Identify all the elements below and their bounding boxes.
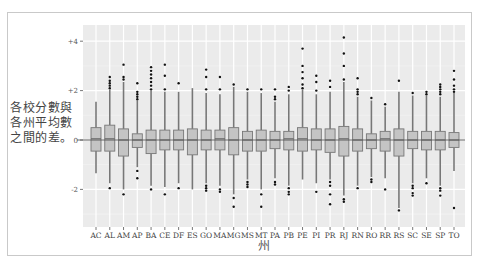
box [284, 131, 294, 150]
x-tick-label: PA [270, 231, 280, 240]
box [146, 130, 156, 153]
x-tick-label: RO [365, 231, 377, 240]
outlier-point [301, 65, 303, 67]
outlier-point [411, 194, 413, 196]
outlier-point [453, 70, 455, 72]
box [325, 129, 335, 152]
outlier-point [205, 88, 207, 90]
y-tick-label: 0 [74, 137, 78, 145]
x-tick-label: ES [187, 231, 198, 240]
outlier-point [384, 103, 386, 105]
outlier-point [453, 88, 455, 90]
outlier-point [370, 181, 372, 183]
outlier-point [150, 188, 152, 190]
outlier-point [439, 86, 441, 88]
outlier-point [246, 181, 248, 183]
x-tick-label: BA [146, 231, 158, 240]
outlier-point [260, 193, 262, 195]
box [380, 131, 390, 151]
outlier-point [150, 88, 152, 90]
outlier-point [150, 81, 152, 83]
y-tick-label: -2 [71, 186, 78, 194]
outlier-point [301, 47, 303, 49]
outlier-point [425, 182, 427, 184]
x-tick-label: CE [159, 231, 170, 240]
outlier-point [205, 68, 207, 70]
outlier-point [136, 98, 138, 100]
outlier-point [301, 87, 303, 89]
outlier-point [274, 183, 276, 185]
outlier-point [288, 191, 290, 193]
outlier-point [356, 93, 358, 95]
outlier-point [136, 96, 138, 98]
box [339, 126, 349, 156]
x-tick-label: AC [89, 231, 101, 240]
outlier-point [343, 52, 345, 54]
outlier-point [219, 191, 221, 193]
x-tick-label: PI [312, 231, 320, 240]
outlier-point [301, 71, 303, 73]
box [187, 129, 197, 155]
panel-background [83, 25, 465, 227]
outlier-point [164, 88, 166, 90]
x-tick-label: SE [421, 231, 432, 240]
outlier-point [439, 194, 441, 196]
outlier-point [315, 75, 317, 77]
outlier-point [411, 192, 413, 194]
x-tick-label: RS [394, 231, 405, 240]
outlier-point [301, 83, 303, 85]
outlier-point [122, 193, 124, 195]
outlier-point [453, 207, 455, 209]
y-tick-label: +2 [68, 87, 78, 95]
x-tick-label: SC [407, 231, 418, 240]
box [298, 128, 308, 151]
outlier-point [356, 91, 358, 93]
box [91, 128, 101, 151]
outlier-point [439, 88, 441, 90]
outlier-point [136, 93, 138, 95]
plot-panel [83, 25, 465, 227]
outlier-point [343, 198, 345, 200]
outlier-point [398, 209, 400, 211]
x-tick-label: PE [297, 231, 308, 240]
box [435, 131, 445, 150]
outlier-point [315, 191, 317, 193]
outlier-point [439, 83, 441, 85]
outlier-point [329, 184, 331, 186]
outlier-point [150, 77, 152, 79]
outlier-point [274, 96, 276, 98]
outlier-point [315, 89, 317, 91]
box [229, 128, 239, 155]
x-tick-label: MS [241, 231, 254, 240]
box [256, 130, 266, 151]
outlier-point [288, 89, 290, 91]
outlier-point [205, 184, 207, 186]
outlier-point [232, 205, 234, 207]
outlier-point [370, 97, 372, 99]
y-axis: +4+20-2 [68, 38, 83, 194]
outlier-point [288, 86, 290, 88]
outlier-point [122, 76, 124, 78]
outlier-point [136, 91, 138, 93]
outlier-point [411, 184, 413, 186]
outlier-point [329, 181, 331, 183]
outlier-point [439, 93, 441, 95]
outlier-point [439, 189, 441, 191]
outlier-point [274, 98, 276, 100]
outlier-point [150, 70, 152, 72]
outlier-point [205, 187, 207, 189]
box [394, 129, 404, 156]
outlier-point [370, 178, 372, 180]
outlier-point [329, 80, 331, 82]
outlier-point [343, 201, 345, 203]
x-tick-label: SP [435, 231, 445, 240]
outlier-point [356, 77, 358, 79]
outlier-point [164, 63, 166, 65]
x-tick-label: MT [255, 231, 268, 240]
x-tick-label: RR [380, 231, 392, 240]
outlier-point [274, 181, 276, 183]
outlier-point [205, 76, 207, 78]
outlier-point [356, 88, 358, 90]
outlier-point [122, 63, 124, 65]
outlier-point [425, 93, 427, 95]
